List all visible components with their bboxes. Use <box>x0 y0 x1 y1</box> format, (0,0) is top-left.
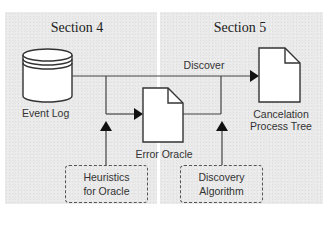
event-log-cylinder-icon <box>23 49 72 102</box>
event-log-label: Event Log <box>22 107 69 119</box>
arrow-up-icon <box>216 121 228 131</box>
arrow-up-icon <box>100 121 112 131</box>
cancelation-tree-label-line2: Process Tree <box>250 120 312 132</box>
discovery-label-line1: Discovery <box>198 170 244 184</box>
discover-edge-label: Discover <box>184 59 225 71</box>
arrow-right-icon <box>250 70 259 82</box>
heuristics-label-line1: Heuristics <box>83 170 129 184</box>
discovery-label-line2: Algorithm <box>198 184 244 198</box>
error-oracle-label: Error Oracle <box>135 148 192 160</box>
discovery-algorithm-box: Discovery Algorithm <box>180 165 263 203</box>
heuristics-for-oracle-box: Heuristics for Oracle <box>65 165 148 203</box>
error-oracle-document-icon <box>143 88 183 142</box>
cancelation-tree-label-line1: Cancelation <box>250 108 312 120</box>
cancelation-tree-label: Cancelation Process Tree <box>250 108 312 132</box>
cancelation-tree-document-icon <box>259 48 300 102</box>
arrow-right-icon <box>134 108 143 120</box>
heuristics-label-line2: for Oracle <box>83 184 129 198</box>
